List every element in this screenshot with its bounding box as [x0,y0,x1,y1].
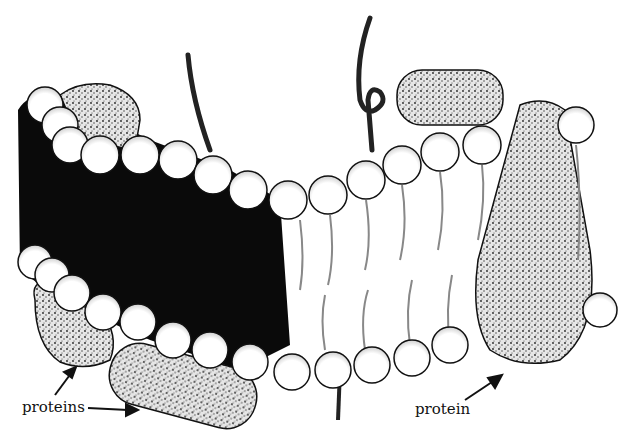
carbohydrate-chain-left [188,55,210,150]
carbohydrate-chain-right [359,18,383,150]
protein-top-right [397,70,503,125]
membrane-illustration [0,0,627,445]
membrane-diagram: proteins protein [0,0,627,445]
proteins-label: proteins [22,398,85,416]
protein-label: protein [415,400,470,418]
